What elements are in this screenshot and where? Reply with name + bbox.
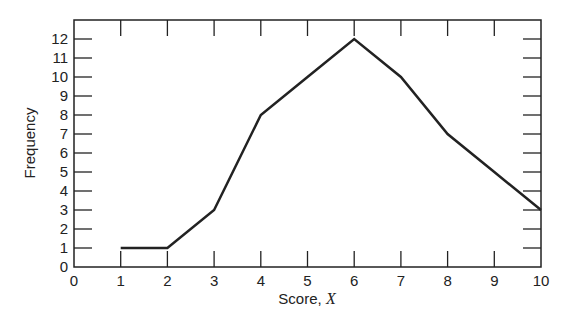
y-tick-label: 12	[51, 30, 68, 47]
frequency-polygon-chart: 012345678910 0123456789101112 Score, X F…	[0, 0, 571, 327]
y-tick-label: 0	[60, 258, 68, 275]
x-tick-label: 9	[490, 272, 498, 289]
x-tick-label: 10	[533, 272, 550, 289]
plot-frame	[74, 20, 541, 267]
y-tick-label: 9	[60, 87, 68, 104]
y-axis-ticks	[74, 39, 541, 248]
x-axis-tick-labels: 012345678910	[70, 272, 550, 289]
x-axis-ticks	[121, 20, 495, 267]
y-tick-label: 3	[60, 201, 68, 218]
x-tick-label: 0	[70, 272, 78, 289]
x-tick-label: 6	[350, 272, 358, 289]
y-axis-tick-labels: 0123456789101112	[51, 30, 68, 275]
x-tick-label: 5	[303, 272, 311, 289]
x-tick-label: 3	[210, 272, 218, 289]
y-tick-label: 7	[60, 125, 68, 142]
y-tick-label: 4	[60, 182, 68, 199]
y-axis-title: Frequency	[21, 107, 38, 178]
y-tick-label: 5	[60, 163, 68, 180]
y-tick-label: 11	[52, 49, 68, 66]
frequency-line	[121, 39, 541, 248]
x-axis-title: Score, X	[278, 290, 337, 307]
x-tick-label: 2	[163, 272, 171, 289]
y-tick-label: 1	[60, 239, 68, 256]
y-tick-label: 6	[60, 144, 68, 161]
y-tick-label: 10	[51, 68, 68, 85]
x-tick-label: 7	[397, 272, 405, 289]
x-tick-label: 1	[117, 272, 125, 289]
y-tick-label: 8	[60, 106, 68, 123]
x-tick-label: 8	[443, 272, 451, 289]
x-tick-label: 4	[257, 272, 265, 289]
y-tick-label: 2	[60, 220, 68, 237]
